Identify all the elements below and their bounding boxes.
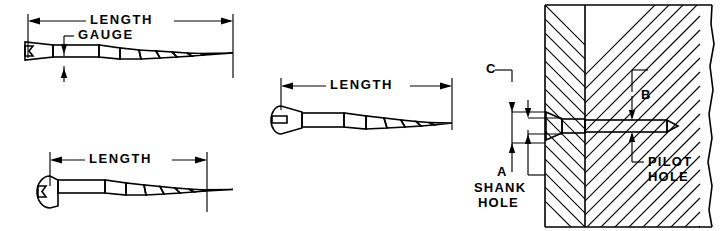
- dimension-c: [495, 70, 545, 172]
- shank-hole-label-line1: SHANK: [474, 181, 526, 196]
- dimension-b-label: B: [641, 88, 651, 103]
- dimension-c-label: C: [486, 62, 496, 77]
- dimension-a-label: A: [497, 165, 507, 180]
- pilot-hole-label-line2: HOLE: [648, 170, 689, 185]
- shank-hole-label-line2: HOLE: [478, 196, 519, 211]
- length-label-2: LENGTH: [330, 78, 393, 93]
- screw-oval-head-body: [271, 106, 452, 134]
- screw-flat-head-body: [25, 42, 233, 60]
- length-label-1: LENGTH: [90, 13, 153, 28]
- screw-dimension-diagram: LENGTH GAUGE LENGTH LENGTH C B A SHANK H…: [0, 0, 722, 231]
- gauge-label: GAUGE: [78, 28, 134, 43]
- cross-section-figure: [495, 0, 715, 231]
- screw-round-head-body: [37, 176, 233, 208]
- gauge-dimension: [61, 36, 74, 82]
- pilot-hole-label-line1: PILOT: [648, 155, 692, 170]
- length-label-3: LENGTH: [89, 152, 152, 167]
